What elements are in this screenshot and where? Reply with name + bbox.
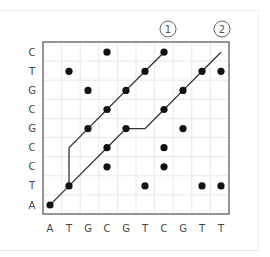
match-dot bbox=[160, 106, 167, 113]
y-axis-label: A bbox=[29, 200, 36, 211]
match-dot bbox=[160, 144, 167, 151]
path-1 bbox=[69, 52, 164, 186]
match-dot bbox=[46, 201, 53, 208]
match-dot bbox=[217, 182, 224, 189]
match-dot bbox=[103, 144, 110, 151]
alignment-paths bbox=[50, 52, 221, 205]
match-dot bbox=[84, 125, 91, 132]
match-dot bbox=[122, 87, 129, 94]
match-dot bbox=[103, 49, 110, 56]
match-dot bbox=[160, 163, 167, 170]
y-axis-label: C bbox=[29, 104, 36, 115]
x-axis-labels: ATGCGTCGTT bbox=[47, 223, 225, 234]
match-dot bbox=[103, 106, 110, 113]
x-axis-label: G bbox=[179, 223, 187, 234]
y-axis-label: C bbox=[29, 47, 36, 58]
match-dot bbox=[103, 163, 110, 170]
y-axis-label: G bbox=[28, 85, 36, 96]
match-dot bbox=[198, 182, 205, 189]
match-dot bbox=[198, 68, 205, 75]
match-dot bbox=[141, 68, 148, 75]
x-axis-label: G bbox=[122, 223, 130, 234]
match-dot bbox=[65, 68, 72, 75]
y-axis-labels: ATCCGCGTC bbox=[28, 47, 36, 211]
x-axis-label: C bbox=[161, 223, 168, 234]
y-axis-label: C bbox=[29, 161, 36, 172]
match-dot bbox=[179, 125, 186, 132]
dot-plot: ATGCGTCGTT ATCCGCGTC 12 bbox=[0, 0, 270, 257]
path-annotations: 12 bbox=[160, 21, 230, 37]
x-axis-label: A bbox=[47, 223, 54, 234]
match-dot bbox=[217, 68, 224, 75]
y-axis-label: C bbox=[29, 142, 36, 153]
y-axis-label: T bbox=[28, 66, 36, 77]
path-2 bbox=[50, 52, 221, 205]
annotation-label: 2 bbox=[219, 24, 225, 35]
match-dot bbox=[122, 125, 129, 132]
match-dot bbox=[160, 49, 167, 56]
x-axis-label: T bbox=[217, 223, 225, 234]
x-axis-label: T bbox=[65, 223, 73, 234]
x-axis-label: G bbox=[84, 223, 92, 234]
x-axis-label: T bbox=[198, 223, 206, 234]
match-dot bbox=[65, 182, 72, 189]
match-dot bbox=[84, 87, 91, 94]
x-axis-label: C bbox=[104, 223, 111, 234]
y-axis-label: G bbox=[28, 123, 36, 134]
match-dot bbox=[141, 182, 148, 189]
y-axis-label: T bbox=[28, 180, 36, 191]
x-axis-label: T bbox=[141, 223, 149, 234]
match-dot bbox=[179, 87, 186, 94]
annotation-label: 1 bbox=[165, 24, 171, 35]
